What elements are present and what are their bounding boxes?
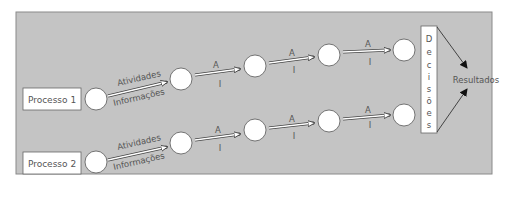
- a-label: A: [213, 60, 219, 70]
- decisions-letter: e: [426, 108, 431, 118]
- process-2-label: Processo 2: [28, 159, 76, 169]
- process-1-label: Processo 1: [28, 95, 76, 105]
- node-circle: [244, 119, 266, 141]
- process-flow-diagram: Processo 1 Atividades Informações A I A …: [0, 0, 507, 199]
- i-label: I: [293, 131, 296, 141]
- node-circle: [393, 39, 415, 61]
- i-label: I: [219, 143, 222, 153]
- decisions-letter: õ: [426, 96, 431, 106]
- i-label: I: [219, 79, 222, 89]
- a-label: A: [289, 114, 295, 124]
- a-label: A: [365, 39, 371, 49]
- results-label: Resultados: [453, 75, 500, 85]
- node-circle: [170, 68, 192, 90]
- a-label: A: [365, 105, 371, 115]
- decisions-letter: e: [426, 47, 431, 57]
- i-label: I: [293, 65, 296, 75]
- node-circle: [393, 104, 415, 126]
- i-label: I: [369, 120, 372, 130]
- decisions-letter: i: [428, 72, 430, 82]
- decisions-letter: s: [427, 120, 432, 130]
- i-label: I: [369, 57, 372, 67]
- decisions-letter: D: [426, 34, 433, 44]
- a-label: A: [215, 125, 221, 135]
- node-circle: [170, 132, 192, 154]
- node-circle: [318, 44, 340, 66]
- decisions-letter: c: [427, 60, 432, 70]
- node-circle: [318, 110, 340, 132]
- node-circle: [85, 88, 107, 110]
- node-circle: [85, 151, 107, 173]
- decisions-box: D e c i s õ e s: [421, 26, 437, 133]
- decisions-letter: s: [427, 84, 432, 94]
- a-label: A: [289, 48, 295, 58]
- node-circle: [244, 55, 266, 77]
